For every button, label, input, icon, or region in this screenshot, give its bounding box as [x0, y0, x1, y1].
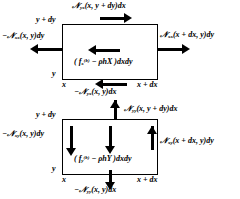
x-element-coord-y: y [52, 70, 56, 78]
y-element-coord-x: x [62, 176, 66, 184]
x-element-coord-top-left: y + dy [36, 16, 56, 24]
x-element-left-force-label: −𝒩xx(x, y)dy [2, 32, 44, 41]
figure-canvas: 𝒩yx(x, y + dy)dx y + dy −𝒩xx(x, y)dy 𝒩xx… [0, 0, 240, 199]
y-element-coord-top-left: y + dy [36, 111, 56, 119]
y-element-right-force-label: 𝒩xy(x + dx, y)dy [160, 137, 214, 146]
y-element-left-force-arrow [66, 126, 76, 156]
x-element-top-force-arrow [100, 13, 132, 23]
y-element-left-force-label: −𝒩xy(x, y)dy [2, 130, 44, 139]
x-element-right-force-arrow [158, 44, 190, 54]
x-element-coord-x: x [62, 81, 66, 89]
x-element-body-force-arrow [88, 45, 120, 55]
y-element-coord-x-plus-dx: x + dx [137, 176, 158, 184]
y-element-top-force-label: 𝒩yy(x, y + dy)dx [124, 105, 177, 114]
y-element-coord-y: y [52, 165, 56, 173]
x-element-left-force-arrow [30, 44, 62, 54]
x-element-top-force-label: 𝒩yx(x, y + dy)dx [72, 2, 126, 11]
y-element-bottom-force-label: −𝒩yy(x, y)dx [74, 186, 116, 195]
y-element-body-force-label: ( fy(b) − ρhY )dxdy [74, 155, 132, 164]
y-element-right-force-arrow [147, 126, 157, 156]
y-element-body-force-arrow [105, 126, 115, 154]
x-element-body-force-label: ( fx(b) − ρhX )dxdy [74, 58, 133, 67]
x-element-right-force-label: 𝒩xx(x + dx, y)dy [160, 31, 214, 40]
x-element-bottom-force-label: −𝒩yx(x, y)dx [74, 88, 116, 97]
x-element-coord-x-plus-dx: x + dx [137, 81, 158, 89]
